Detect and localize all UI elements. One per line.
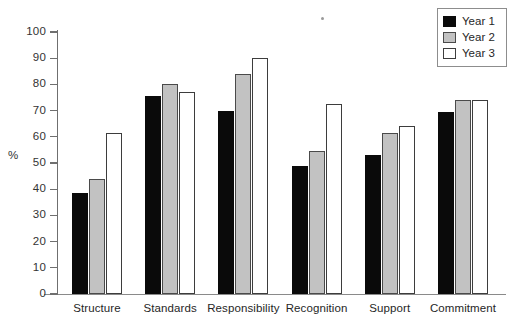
x-axis-label: Structure bbox=[73, 302, 121, 314]
y-axis-tick-label: 70 bbox=[0, 105, 46, 117]
x-axis-label: Commitment bbox=[430, 302, 496, 314]
bar-group bbox=[438, 32, 488, 294]
legend-swatch-icon bbox=[443, 16, 456, 27]
bar bbox=[472, 100, 488, 294]
bar-group bbox=[218, 32, 268, 294]
legend-label: Year 1 bbox=[462, 16, 495, 28]
y-axis-tick-label: 30 bbox=[0, 210, 46, 222]
bar bbox=[382, 133, 398, 294]
bar bbox=[252, 58, 268, 294]
artifact-speck bbox=[321, 17, 324, 20]
y-axis-tick-label: 80 bbox=[0, 79, 46, 91]
y-axis-tick-label: 40 bbox=[0, 183, 46, 195]
legend-swatch-icon bbox=[443, 48, 456, 59]
bar bbox=[399, 126, 415, 294]
y-axis-tick-label: 90 bbox=[0, 52, 46, 64]
y-axis-tick-label: 100 bbox=[0, 26, 46, 38]
bar-group bbox=[145, 32, 195, 294]
y-axis-tick-label: 10 bbox=[0, 262, 46, 274]
legend-item[interactable]: Year 3 bbox=[443, 46, 501, 61]
bar bbox=[179, 92, 195, 294]
bar-group bbox=[292, 32, 342, 294]
y-axis-tick-label: 20 bbox=[0, 236, 46, 248]
x-axis-label: Recognition bbox=[286, 302, 348, 314]
legend-label: Year 3 bbox=[462, 48, 495, 60]
x-axis-label: Support bbox=[369, 302, 410, 314]
y-axis-tick-label: 0 bbox=[0, 288, 46, 300]
bar bbox=[162, 84, 178, 294]
legend-item[interactable]: Year 2 bbox=[443, 30, 501, 45]
bar bbox=[365, 155, 381, 294]
bar bbox=[438, 112, 454, 294]
bar bbox=[218, 111, 234, 294]
bar bbox=[72, 193, 88, 294]
bar bbox=[89, 179, 105, 294]
bar-group bbox=[365, 32, 415, 294]
bar bbox=[309, 151, 325, 294]
legend: Year 1Year 2Year 3 bbox=[437, 8, 507, 67]
bar bbox=[455, 100, 471, 294]
x-axis-label: Standards bbox=[144, 302, 197, 314]
bar bbox=[106, 133, 122, 294]
chart-figure: % 1009080706050403020100 StructureStanda… bbox=[0, 0, 515, 325]
plot-area bbox=[57, 32, 509, 294]
bar bbox=[326, 104, 342, 294]
bar bbox=[292, 166, 308, 294]
legend-item[interactable]: Year 1 bbox=[443, 14, 501, 29]
x-axis-label: Responsibility bbox=[207, 302, 279, 314]
legend-swatch-icon bbox=[443, 32, 456, 43]
y-axis-tick-label: 60 bbox=[0, 131, 46, 143]
bar bbox=[235, 74, 251, 294]
y-axis-tick-label: 50 bbox=[0, 157, 46, 169]
legend-label: Year 2 bbox=[462, 32, 495, 44]
bar bbox=[145, 96, 161, 294]
bar-group bbox=[72, 32, 122, 294]
